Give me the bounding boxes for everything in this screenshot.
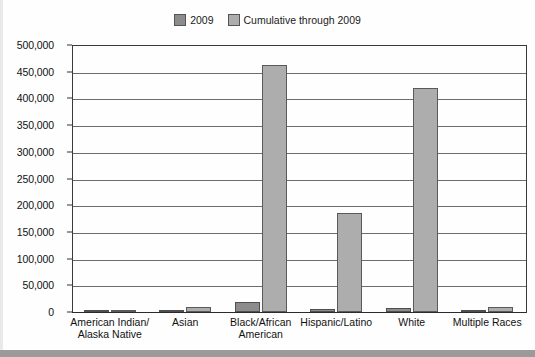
bar-0-1 xyxy=(159,310,184,312)
x-axis-line xyxy=(72,312,526,313)
y-tick-label: 400,000 xyxy=(17,92,54,104)
y-tick-label: 100,000 xyxy=(17,253,54,265)
y-tick-label: 300,000 xyxy=(17,146,54,158)
bar-1-5 xyxy=(488,307,513,312)
chart-legend: 2009Cumulative through 2009 xyxy=(0,14,535,26)
bar-0-4 xyxy=(386,308,411,312)
y-tick-label: 500,000 xyxy=(17,39,54,51)
bar-1-3 xyxy=(337,213,362,312)
bar-1-4 xyxy=(413,88,438,312)
scan-artifact-bottom xyxy=(0,350,535,357)
y-tick-label: 250,000 xyxy=(17,173,54,185)
y-axis: 050,000100,000150,000200,000250,000300,0… xyxy=(0,45,62,312)
y-tick-label: 50,000 xyxy=(22,279,54,291)
x-axis: American Indian/ Alaska NativeAsianBlack… xyxy=(72,316,525,348)
legend-entry-1: Cumulative through 2009 xyxy=(228,14,361,26)
legend-label: 2009 xyxy=(190,14,213,26)
y-tick-label: 0 xyxy=(48,306,54,318)
y-tick-label: 450,000 xyxy=(17,66,54,78)
legend-entry-0: 2009 xyxy=(174,14,213,26)
bar-0-3 xyxy=(310,309,335,312)
y-tick-label: 200,000 xyxy=(17,199,54,211)
legend-label: Cumulative through 2009 xyxy=(244,14,361,26)
y-tick-label: 150,000 xyxy=(17,226,54,238)
bar-0-5 xyxy=(461,310,486,312)
bar-0-2 xyxy=(235,302,260,312)
y-tick-label: 350,000 xyxy=(17,119,54,131)
chart-figure: 2009Cumulative through 2009 050,000100,0… xyxy=(0,0,535,357)
bar-0-0 xyxy=(84,310,109,312)
bar-1-0 xyxy=(111,310,136,312)
x-tick-label: Multiple Races xyxy=(437,316,535,328)
bar-1-1 xyxy=(186,307,211,312)
legend-swatch-icon xyxy=(174,14,186,26)
bar-1-2 xyxy=(262,65,287,312)
legend-swatch-icon xyxy=(228,14,240,26)
bars-layer xyxy=(72,45,525,312)
